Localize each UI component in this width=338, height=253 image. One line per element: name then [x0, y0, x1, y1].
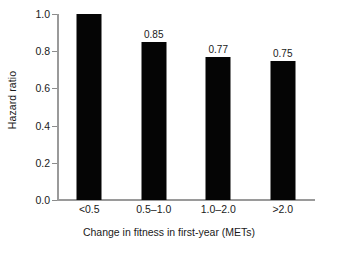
x-axis-tick-labels: <0.50.5–1.01.0–2.0>2.0: [57, 203, 315, 219]
y-axis-tick-label: 0.2: [18, 158, 50, 168]
x-axis-tick-label: 0.5–1.0: [136, 203, 171, 216]
y-axis-title-text: Hazard ratio: [6, 71, 18, 129]
bar-group[interactable]: [57, 14, 122, 200]
bar[interactable]: [206, 57, 231, 200]
bar[interactable]: [77, 14, 102, 200]
y-axis-tick-label: 0.6: [18, 83, 50, 93]
bar-group[interactable]: 0.75: [251, 14, 316, 200]
y-axis-tick-label: 0.4: [18, 121, 50, 131]
bar-group[interactable]: 0.77: [186, 14, 251, 200]
bar-value-label: 0.85: [144, 29, 163, 40]
y-axis-tick-labels: 0.00.20.40.60.81.0: [18, 0, 50, 200]
x-axis-tick-label: 1.0–2.0: [201, 203, 236, 216]
bar-value-label: 0.77: [209, 44, 228, 55]
bar-value-label: 0.75: [273, 48, 292, 59]
bar[interactable]: [270, 61, 295, 201]
y-axis-tick-label: 0.0: [18, 195, 50, 205]
plot-area: 0.850.770.75: [57, 14, 315, 200]
y-axis-tick-label: 0.8: [18, 46, 50, 56]
x-axis-title: Change in fitness in first-year (METs): [0, 226, 338, 238]
bar-group[interactable]: 0.85: [122, 14, 187, 200]
x-axis-tick-label: >2.0: [272, 203, 293, 216]
hazard-ratio-bar-chart: Hazard ratio 0.00.20.40.60.81.0 0.850.77…: [0, 0, 338, 253]
bar[interactable]: [141, 42, 166, 200]
y-axis-tick-label: 1.0: [18, 9, 50, 19]
x-axis-tick-label: <0.5: [79, 203, 100, 216]
